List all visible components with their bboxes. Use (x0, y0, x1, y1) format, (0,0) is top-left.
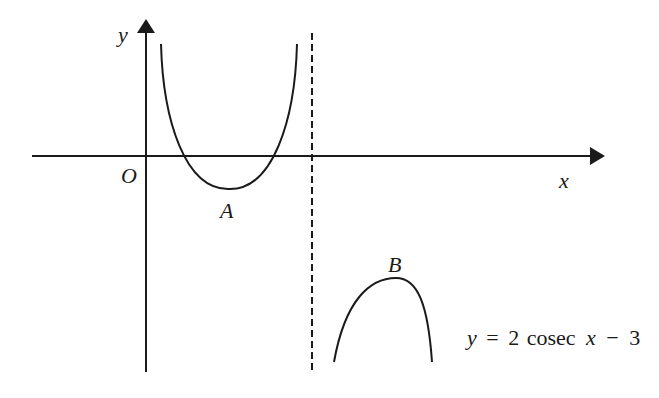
point-a-label: A (218, 198, 234, 223)
y-axis-arrow-icon (137, 19, 155, 33)
graph-canvas: y x O A B y = 2 cosec x − 3 (0, 0, 659, 398)
equation-label: y = 2 cosec x − 3 (465, 325, 640, 350)
point-b-label: B (388, 252, 401, 277)
x-axis-label: x (558, 168, 569, 193)
curve-branch-b (334, 278, 432, 362)
y-axis-label: y (116, 22, 128, 47)
curve-branch-a (161, 44, 297, 189)
origin-label: O (121, 163, 137, 188)
x-axis-arrow-icon (590, 147, 605, 165)
